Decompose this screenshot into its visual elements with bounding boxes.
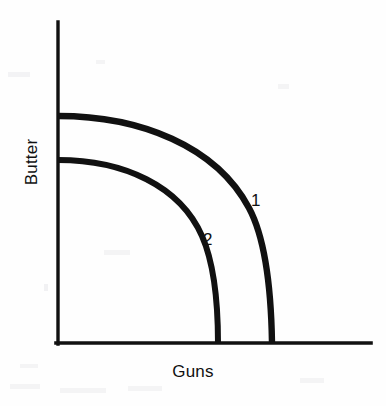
- ppf-curve-2: [58, 160, 218, 343]
- ppf-figure: 1 2 Butter Guns: [0, 0, 386, 406]
- x-axis-title: Guns: [0, 362, 386, 382]
- ppf-plot-area: [0, 0, 386, 406]
- curve-label-2: 2: [203, 230, 212, 250]
- ppf-curve-1: [58, 116, 272, 343]
- y-axis-title: Butter: [22, 117, 42, 207]
- curve-label-1: 1: [251, 191, 260, 211]
